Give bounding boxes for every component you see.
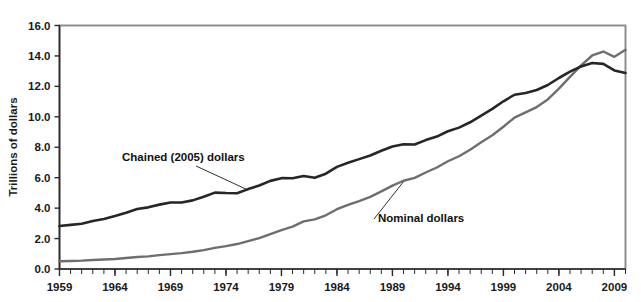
y-axis-title: Trillions of dollars: [7, 97, 19, 196]
x-tick-label: 1969: [158, 281, 184, 293]
y-tick-label: 14.0: [28, 50, 50, 62]
y-tick-label: 0.0: [35, 263, 51, 275]
y-tick-label: 10.0: [28, 111, 50, 123]
gdp-line-chart: Trillions of dollars 0.02.04.06.08.010.0…: [0, 0, 641, 302]
y-tick-label: 12.0: [28, 80, 50, 92]
x-tick-label: 1999: [491, 281, 517, 293]
y-tick-label: 4.0: [35, 202, 51, 214]
series-label-chained-2005-dollars: Chained (2005) dollars: [122, 151, 245, 163]
x-tick-label: 2004: [546, 281, 572, 293]
series-label-nominal-dollars: Nominal dollars: [378, 212, 464, 224]
y-tick-label: 2.0: [35, 233, 51, 245]
x-tick-label: 1994: [435, 281, 461, 293]
x-tick-label: 1959: [47, 281, 73, 293]
x-tick-label: 1984: [324, 281, 350, 293]
x-tick-label: 1979: [269, 281, 295, 293]
chart-svg: Trillions of dollars 0.02.04.06.08.010.0…: [0, 0, 641, 302]
x-tick-label: 2009: [602, 281, 628, 293]
x-tick-label: 1989: [380, 281, 406, 293]
y-tick-label: 6.0: [35, 172, 51, 184]
chart-background: [0, 0, 641, 302]
x-tick-label: 1964: [102, 281, 128, 293]
y-tick-label: 16.0: [28, 20, 50, 32]
x-tick-label: 1974: [213, 281, 239, 293]
y-tick-label: 8.0: [35, 141, 51, 153]
